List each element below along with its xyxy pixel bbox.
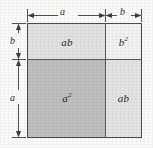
dim-arrowhead-b-top-start [106,13,113,18]
region-b-squared: b2 [106,24,141,60]
vertical-divider-line [105,23,106,138]
horizontal-divider-line [27,59,142,60]
region-ab-bottom-label: ab [118,93,129,104]
region-a-squared-exponent: 2 [68,91,72,99]
region-ab-top: ab [28,24,106,60]
region-ab-bottom: ab [106,60,141,137]
dim-arrowhead-a-left-start [16,60,21,67]
region-a-squared: a2 [28,60,106,137]
binomial-square-figure: ab b2 a2 ab [0,0,153,148]
dim-arrowhead-a-top-start [28,13,35,18]
dim-arrowhead-b-left-start [16,24,21,31]
dim-arrowhead-b-top-end [135,13,142,18]
region-a-squared-label: a2 [62,93,71,104]
dimension-label-a-top: a [60,7,65,17]
dimension-label-b-left: b [10,36,15,46]
dimension-label-b-top: b [120,7,125,17]
dim-arrowhead-a-top-end [99,13,106,18]
outer-square: ab b2 a2 ab [27,23,142,138]
dimension-label-a-left: a [10,93,15,103]
region-b-squared-exponent: 2 [125,35,129,43]
region-ab-top-label: ab [61,37,72,48]
region-b-squared-label: b2 [119,37,128,48]
dim-arrowhead-a-left-end [16,131,21,138]
dim-arrowhead-b-left-end [16,53,21,60]
